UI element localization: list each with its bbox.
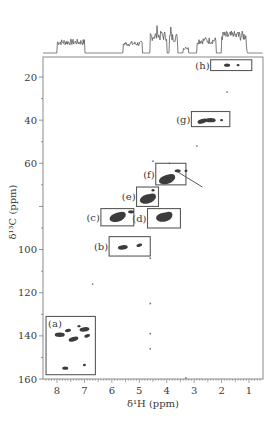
cross-peak	[197, 118, 208, 125]
stray-peak	[149, 333, 151, 335]
cross-peak	[55, 333, 65, 337]
region-box-a: (a)	[46, 316, 95, 374]
plot-frame	[43, 57, 263, 379]
stray-peak	[185, 377, 187, 379]
cross-peak	[84, 333, 91, 338]
cross-peak	[79, 327, 90, 333]
y-tick-label: 160	[18, 374, 37, 385]
stray-peak	[149, 348, 151, 350]
region-label: (b)	[94, 241, 108, 252]
x-tick-label: 7	[81, 385, 87, 396]
y-axis-title: δ¹³C (ppm)	[7, 184, 18, 239]
x-tick-label: 8	[54, 385, 60, 396]
y-tick-label: 100	[18, 244, 37, 255]
region-label: (h)	[195, 60, 209, 71]
projection-path	[43, 26, 263, 53]
region-label: (d)	[132, 213, 146, 224]
stray-peak	[92, 283, 94, 285]
cross-peak	[128, 210, 134, 213]
hsqc-plot: 87654321 204060100120140160 (h)(g)(f)(e)…	[0, 0, 277, 428]
x-axis-title: δ¹H (ppm)	[127, 398, 179, 409]
cross-peak	[236, 64, 239, 67]
cross-peak	[118, 245, 129, 251]
x-tick-label: 6	[109, 385, 115, 396]
cross-peak	[62, 367, 68, 370]
cross-peak-lobe	[168, 174, 175, 180]
cross-peak	[65, 328, 71, 332]
region-label: (f)	[143, 169, 155, 180]
cross-peak	[152, 189, 155, 191]
x-tick-label: 3	[191, 385, 197, 396]
cross-peak	[83, 364, 86, 367]
cross-peak	[206, 118, 216, 122]
cross-peak	[77, 325, 80, 327]
x-tick-label: 1	[246, 385, 252, 396]
cross-peak-lobe	[165, 212, 172, 218]
stray-peaks	[92, 91, 228, 379]
cross-peak	[136, 243, 143, 248]
cross-peak-lobe	[119, 212, 126, 218]
y-tick-label: 120	[18, 287, 37, 298]
stray-peak	[152, 160, 154, 162]
stray-peak	[149, 303, 151, 305]
stray-peak	[149, 257, 151, 259]
region-box-h: (h)	[195, 60, 251, 71]
y-axis: 204060100120140160	[18, 72, 43, 385]
y-tick-label: 60	[24, 158, 37, 169]
stray-peak	[196, 145, 198, 147]
x-tick-label: 5	[136, 385, 142, 396]
stray-peak	[226, 91, 228, 93]
x-axis: 87654321	[46, 379, 260, 396]
region-label: (a)	[48, 318, 62, 329]
x-tick-label: 4	[164, 385, 170, 396]
cross-peak	[68, 336, 79, 343]
region-rect	[211, 60, 252, 71]
region-boxes: (h)(g)(f)(e)(d)(c)(b)(a)	[46, 60, 252, 375]
region-label: (c)	[86, 212, 100, 223]
y-tick-label: 40	[24, 115, 37, 126]
x-tick-label: 2	[218, 385, 224, 396]
y-tick-label: 20	[24, 72, 37, 83]
y-tick-label: 140	[18, 330, 37, 341]
region-label: (e)	[122, 191, 136, 202]
cross-peak	[224, 64, 230, 67]
cross-peak	[220, 119, 223, 122]
region-label: (g)	[176, 114, 190, 125]
cross-peak	[184, 169, 187, 172]
region-rect	[109, 237, 150, 256]
cross-peak-lobe	[149, 193, 156, 199]
proton-projection-trace	[43, 26, 263, 53]
cross-peak	[175, 169, 181, 172]
hsqc-figure: 87654321 204060100120140160 (h)(g)(f)(e)…	[0, 0, 277, 428]
